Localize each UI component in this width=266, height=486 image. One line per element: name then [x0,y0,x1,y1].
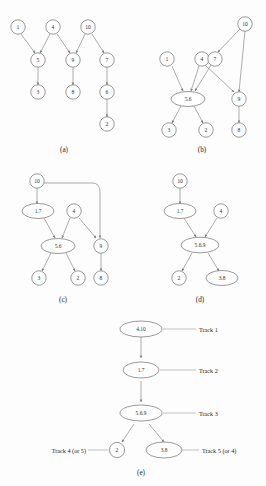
node-d-10-label: 10 [177,178,183,184]
edge-b-5.6-to-3 [172,106,181,123]
node-c-5.6-label: 5.6 [55,243,62,249]
node-d-4-label: 4 [220,208,223,214]
panel-c-edges [37,183,101,271]
edge-b-5.6-to-2 [194,106,203,123]
node-b-4[interactable]: 4 [195,52,209,66]
node-e-4.10[interactable]: 4.10 [120,321,162,337]
panel-b-caption: (b) [198,146,207,154]
edge-c-4-to-9 [79,218,96,238]
node-d-3.8[interactable]: 3.8 [206,271,238,286]
track-label-1: Track 1 [199,326,218,333]
node-d-1.7-label: 1.7 [177,208,184,214]
node-c-4[interactable]: 4 [67,204,81,218]
node-a-3[interactable]: 3 [31,85,45,99]
node-b-8[interactable]: 8 [232,123,246,137]
node-a-6[interactable]: 6 [100,85,114,99]
node-b-10[interactable]: 10 [238,17,252,31]
edge-c-5.6-to-2 [66,253,75,271]
node-d-4[interactable]: 4 [214,204,228,218]
node-c-3[interactable]: 3 [32,271,46,285]
panel-d: 10 1.7 4 5.6.9 2 3.8 (d) [164,174,238,304]
node-a-8-label: 8 [72,89,75,95]
edge-d-4-to-5.6.9 [205,218,217,237]
edge-e-5.6.9-to-3.8 [149,424,164,442]
node-a-4[interactable]: 4 [46,20,60,34]
panel-e: 4.10 1.7 5.6.9 2 3.8 Track 1 Track 2 Tra… [52,321,237,477]
node-a-5-label: 5 [37,57,40,63]
node-a-9[interactable]: 9 [66,53,80,67]
node-a-8[interactable]: 8 [66,85,80,99]
node-c-9-label: 9 [100,243,103,249]
panel-a-edges [21,34,107,117]
edge-4-to-9 [57,34,70,53]
node-e-3.8-label: 3.8 [161,447,168,453]
panel-c: 10 1.7 4 5.6 9 3 [22,174,108,304]
node-a-2[interactable]: 2 [100,117,114,131]
node-c-1.7-label: 1.7 [35,208,42,214]
panel-d-caption: (d) [196,296,205,304]
node-b-10-label: 10 [242,21,248,27]
node-d-1.7[interactable]: 1.7 [164,204,196,219]
edge-b-4-to-9 [205,65,234,92]
node-a-6-label: 6 [106,89,109,95]
edge-10-to-7 [92,34,104,53]
node-d-2[interactable]: 2 [172,271,186,285]
node-b-8-label: 8 [238,127,241,133]
node-c-10[interactable]: 10 [30,174,44,188]
node-b-1[interactable]: 1 [160,52,174,66]
node-b-3[interactable]: 3 [162,123,176,137]
panel-e-caption: (e) [137,469,146,477]
node-e-2-label: 2 [116,447,119,453]
node-c-8[interactable]: 8 [94,271,108,285]
panel-b: 10 1 4 7 5.6 9 [160,17,252,154]
node-a-10-label: 10 [85,24,91,30]
node-a-3-label: 3 [37,89,40,95]
edge-b-4-to-5.6 [191,66,199,91]
edge-d-5.6.9-to-3.8 [208,253,219,271]
edge-10-to-9 [76,34,85,53]
panel-d-edges [180,188,219,271]
panel-a: 1 4 10 5 9 7 3 [11,20,114,154]
node-b-9[interactable]: 9 [232,92,246,106]
node-b-2[interactable]: 2 [199,123,213,137]
node-e-3.8[interactable]: 3.8 [146,442,182,458]
node-b-4-label: 4 [201,56,204,62]
node-a-5[interactable]: 5 [31,53,45,67]
panel-e-track-lines [88,329,199,450]
node-d-2-label: 2 [178,275,181,281]
node-e-2[interactable]: 2 [109,442,124,457]
track-label-5: Track 5 (or 4) [202,447,236,455]
node-c-1.7[interactable]: 1.7 [22,204,54,219]
track-label-2: Track 2 [199,367,218,374]
node-e-1.7[interactable]: 1.7 [123,362,159,378]
node-d-3.8-label: 3.8 [219,275,226,281]
node-c-2[interactable]: 2 [71,271,85,285]
node-b-5.6-label: 5.6 [185,96,192,102]
panel-a-caption: (a) [60,146,69,154]
node-c-9[interactable]: 9 [94,239,108,253]
node-b-5.6[interactable]: 5.6 [171,92,205,107]
track-label-4: Track 4 (or 5) [52,447,86,455]
node-d-5.6.9-label: 5.6.9 [195,242,206,248]
edge-e-5.6.9-to-2 [122,424,134,442]
node-b-7[interactable]: 7 [208,52,222,66]
track-label-3: Track 3 [199,410,218,417]
node-a-1[interactable]: 1 [11,20,25,34]
node-b-7-label: 7 [214,56,217,62]
panel-e-edges [122,337,164,442]
node-c-5.6[interactable]: 5.6 [41,239,75,254]
node-a-10[interactable]: 10 [81,20,95,34]
node-d-5.6.9[interactable]: 5.6.9 [181,237,219,253]
edge-4-to-5 [40,34,50,53]
figure-canvas: 1 4 10 5 9 7 3 [0,0,266,486]
panel-c-caption: (c) [59,296,68,304]
node-a-7[interactable]: 7 [100,53,114,67]
node-a-7-label: 7 [106,57,109,63]
edge-c-4-to-5.6 [62,218,70,238]
node-e-5.6.9-label: 5.6.9 [136,410,147,416]
edge-b-1-to-5.6 [172,66,183,91]
node-b-9-label: 9 [238,96,241,102]
node-d-10[interactable]: 10 [173,174,187,188]
node-a-9-label: 9 [72,57,75,63]
node-e-5.6.9[interactable]: 5.6.9 [120,405,162,421]
